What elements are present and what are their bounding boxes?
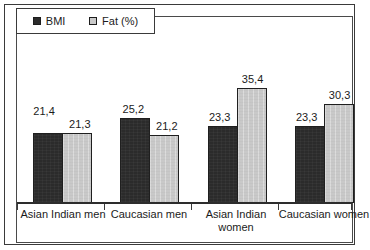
bar-value-label: 23,3 [296,111,317,123]
bar-value-label: 35,4 [242,73,263,85]
category-label-asian-indian-women: Asian Indian women [193,208,279,234]
bar-value-label: 25,2 [123,103,144,115]
category-label-asian-indian-men: Asian Indian men [17,208,109,221]
bar-fat-asian-indian-women: 35,4 [237,88,267,203]
bar-bmi-caucasian-men: 25,2 [120,118,150,203]
category-axis-line [17,202,352,204]
figure-frame: BMI Fat (%) 21,4 21,3 25,2 [4,4,355,245]
bar-fat-caucasian-women: 30,3 [324,104,354,203]
bar-value-label: 21,3 [69,118,90,130]
bar-value-label: 21,2 [156,120,177,132]
bar-value-label: 30,3 [329,89,350,101]
plot-area: 21,4 21,3 25,2 21,2 23,3 [17,17,352,203]
bar-fat-asian-indian-men: 21,3 [62,133,92,203]
bar-value-label: 21,4 [33,105,54,117]
category-label-caucasian-men: Caucasian men [106,208,192,221]
bar-bmi-asian-indian-women: 23,3 [208,126,238,203]
bar-value-label: 23,3 [209,111,230,123]
bar-bmi-asian-indian-men: 21,4 [33,133,63,203]
bar-bmi-caucasian-women: 23,3 [295,126,325,203]
category-label-caucasian-women: Caucasian women [278,208,370,221]
category-axis-labels: Asian Indian men Caucasian men Asian Ind… [17,208,357,242]
bar-fat-caucasian-men: 21,2 [149,135,179,203]
